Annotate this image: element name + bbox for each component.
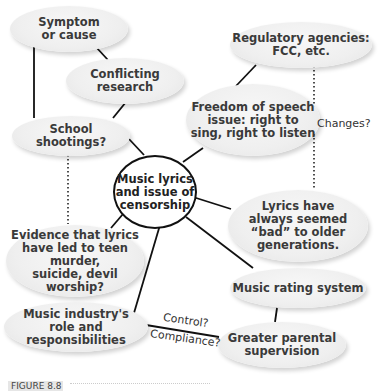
node-regulatory-agencies: Regulatory agencies: FCC, etc. (230, 22, 372, 68)
node-label: Lyrics have always seemed “bad” to older… (249, 200, 348, 252)
node-lyrics-bad: Lyrics have always seemed “bad” to older… (228, 190, 368, 262)
center-node: Music lyrics and issue of censorship (113, 155, 197, 229)
node-music-rating-system: Music rating system (230, 268, 366, 308)
edge-freedom-regulatory (236, 65, 256, 86)
node-label: Regulatory agencies: FCC, etc. (232, 32, 369, 58)
node-label: Music rating system (233, 282, 364, 295)
node-symptom-or-cause: Symptom or cause (10, 6, 128, 52)
edge-center-evidence (111, 214, 123, 228)
node-parental-supervision: Greater parental supervision (218, 322, 346, 368)
node-label: Symptom or cause (38, 16, 99, 42)
edge-conflicting-school (113, 102, 126, 118)
node-school-shootings: School shootings? (12, 116, 130, 156)
edge-label-changes: Changes? (317, 117, 371, 130)
edge-rating-parental (275, 308, 277, 322)
node-label: Evidence that lyrics have led to teen mu… (6, 229, 144, 294)
node-label: Freedom of speech issue: right to sing, … (191, 101, 316, 140)
node-label: Music industry's role and responsibiliti… (4, 308, 148, 347)
figure-caption: FIGURE 8.8 (8, 381, 63, 391)
node-evidence: Evidence that lyrics have led to teen mu… (6, 225, 144, 297)
center-label: Music lyrics and issue of censorship (116, 173, 195, 212)
node-label: Conflicting research (90, 68, 160, 94)
edge-center-freedom (183, 148, 203, 162)
node-freedom-of-speech: Freedom of speech issue: right to sing, … (186, 84, 320, 156)
node-label: School shootings? (36, 123, 106, 149)
caption-text-cropped (70, 383, 210, 388)
edge-center-lyricsbad (193, 197, 231, 209)
node-label: Greater parental supervision (228, 332, 337, 358)
node-music-industry: Music industry's role and responsibiliti… (4, 302, 148, 352)
node-conflicting-research: Conflicting research (66, 58, 184, 104)
edge-school-center (129, 139, 144, 155)
